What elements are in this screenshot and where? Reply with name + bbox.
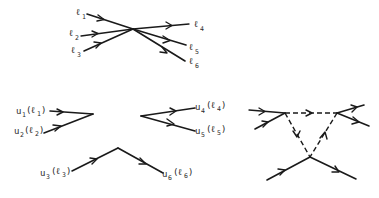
- split-vertex-bottom: [72, 148, 163, 173]
- svg-text:ℓ: ℓ: [211, 100, 215, 110]
- svg-text:): ): [221, 100, 226, 110]
- svg-text:): ): [66, 166, 71, 176]
- svg-text:u: u: [40, 168, 45, 178]
- svg-text:ℓ: ℓ: [56, 166, 60, 176]
- label-l5: ℓ: [189, 42, 193, 52]
- svg-text:): ): [221, 124, 226, 134]
- svg-text:4: 4: [201, 107, 205, 115]
- svg-text:u: u: [195, 126, 200, 136]
- svg-text:4: 4: [200, 25, 204, 33]
- svg-text:u: u: [14, 126, 19, 136]
- svg-text:u: u: [162, 169, 167, 179]
- leg-l4: [133, 24, 189, 29]
- svg-text:ℓ: ℓ: [31, 105, 35, 115]
- label-l3: ℓ: [71, 45, 75, 55]
- svg-text:): ): [41, 105, 46, 115]
- svg-text:5: 5: [195, 48, 199, 56]
- svg-text:6: 6: [195, 62, 199, 70]
- label-l4: ℓ: [194, 19, 198, 29]
- split-right-labels: u 4 ( ℓ 4 ) u 5 ( ℓ 5 ): [195, 100, 226, 139]
- svg-text:1: 1: [82, 13, 86, 21]
- svg-text:6: 6: [168, 174, 172, 182]
- split-vertex-right: [141, 108, 195, 131]
- label-l2: ℓ: [69, 28, 73, 38]
- leg-l6: [133, 29, 185, 61]
- svg-text:5: 5: [201, 131, 205, 139]
- top-vertex-diagram: [81, 14, 189, 61]
- svg-text:3: 3: [77, 51, 81, 59]
- label-l6: ℓ: [189, 56, 193, 66]
- internal-line: [310, 113, 337, 157]
- svg-text:): ): [188, 167, 193, 177]
- diagram-canvas: ℓ 1 ℓ 2 ℓ 3 ℓ 4 ℓ 5 ℓ 6 u 1 ( ℓ 1 ) u 2 …: [0, 0, 379, 198]
- leg-l1: [87, 14, 133, 29]
- split-bottom-labels: u 3 ( ℓ 3 ) u 6 ( ℓ 6 ): [40, 166, 193, 182]
- svg-text:ℓ: ℓ: [211, 124, 215, 134]
- svg-text:3: 3: [46, 173, 50, 181]
- svg-text:u: u: [16, 106, 21, 116]
- split-left-labels: u 1 ( ℓ 1 ) u 2 ( ℓ 2 ): [14, 105, 46, 139]
- svg-text:u: u: [195, 102, 200, 112]
- triangle-diagram: [249, 105, 369, 180]
- split-vertex-left: [44, 109, 93, 133]
- arrow-icon: [167, 119, 174, 126]
- svg-text:2: 2: [75, 34, 79, 42]
- svg-text:): ): [39, 125, 44, 135]
- svg-text:ℓ: ℓ: [29, 125, 33, 135]
- svg-text:ℓ: ℓ: [178, 167, 182, 177]
- arrow-icon: [293, 131, 300, 137]
- leg-l5: [133, 29, 186, 45]
- label-l1: ℓ: [76, 7, 80, 17]
